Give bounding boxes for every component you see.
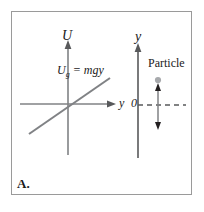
particle-label: Particle (148, 57, 185, 69)
equation-remainder: = mgy (70, 63, 104, 77)
figure-panel-a: U Ug = mgy y 0 y Particle A. (0, 0, 204, 212)
particle-motion-arrow (155, 83, 161, 130)
origin-label: 0 (131, 97, 137, 109)
particle-dot (155, 77, 161, 83)
right-plot-axis-label: y (135, 30, 141, 44)
figure-graphics (0, 0, 204, 212)
equation-symbol: U (57, 63, 66, 77)
left-plot-horizontal-axis-label: y (119, 97, 124, 109)
panel-label: A. (17, 177, 30, 190)
left-plot-vertical-axis-label: U (62, 29, 72, 43)
potential-energy-equation-label: Ug = mgy (57, 64, 104, 79)
left-plot-vertical-axis (65, 40, 72, 155)
potential-energy-line (29, 78, 110, 134)
